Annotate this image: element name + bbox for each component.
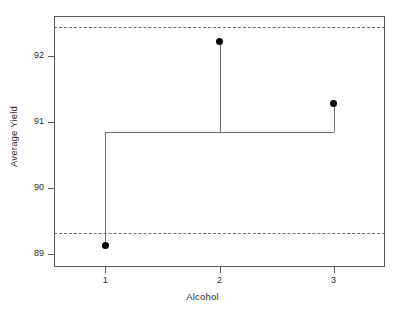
y-axis-title: Average Yield xyxy=(8,87,19,187)
x-tick-label: 1 xyxy=(90,276,120,285)
upper-decision-limit xyxy=(54,27,385,28)
y-tick-label: 90 xyxy=(34,183,44,192)
y-tick-label: 92 xyxy=(34,51,44,60)
x-tick-label: 2 xyxy=(205,276,235,285)
lower-decision-limit xyxy=(54,233,385,234)
y-tick-label: 89 xyxy=(34,249,44,258)
data-point xyxy=(102,242,109,249)
center-line xyxy=(105,132,333,133)
effect-stem xyxy=(220,41,221,131)
y-tick-label: 91 xyxy=(34,117,44,126)
x-tick-mark xyxy=(334,267,335,273)
data-point xyxy=(330,100,337,107)
effect-stem xyxy=(334,104,335,132)
x-tick-mark xyxy=(220,267,221,273)
x-axis-title: Alcohol xyxy=(0,291,405,302)
plot-area xyxy=(54,16,385,267)
x-tick-mark xyxy=(105,267,106,273)
data-point xyxy=(216,38,223,45)
x-tick-label: 3 xyxy=(319,276,349,285)
anom-chart: 89909192 123 Alcohol Average Yield xyxy=(0,0,405,313)
effect-stem xyxy=(105,132,106,246)
